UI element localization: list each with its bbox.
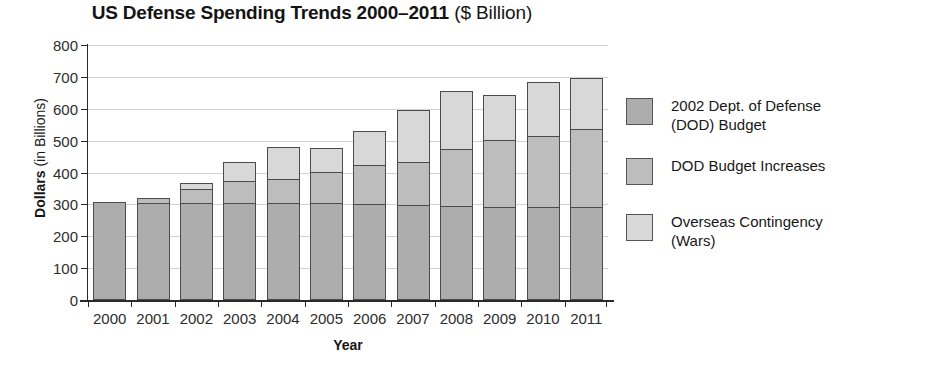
x-axis-tick xyxy=(218,300,219,307)
x-axis-tick xyxy=(391,300,392,307)
x-axis-tick-label: 2002 xyxy=(174,311,218,327)
bar-segment-base xyxy=(180,203,213,300)
y-axis-tick xyxy=(81,268,88,269)
x-axis-tick xyxy=(521,300,522,307)
x-axis-tick-label: 2003 xyxy=(218,311,262,327)
x-axis-tick xyxy=(348,300,349,307)
bar-segment-ocw xyxy=(267,147,300,180)
legend-item-label: DOD Budget Increases xyxy=(671,156,931,175)
bar-segment-base xyxy=(93,202,126,300)
chart-title: US Defense Spending Trends 2000–2011 ($ … xyxy=(0,2,624,24)
bar-column xyxy=(223,45,256,300)
bar-segment-incr xyxy=(527,136,560,207)
chart-legend: 2002 Dept. of Defense(DOD) BudgetDOD Bud… xyxy=(626,96,946,272)
bar-segment-incr xyxy=(180,189,213,204)
y-axis-tick xyxy=(81,204,88,205)
legend-item: Overseas Contingency(Wars) xyxy=(626,212,946,250)
bar-segment-base xyxy=(310,203,343,300)
bar-segment-incr xyxy=(483,140,516,207)
x-axis-tick xyxy=(606,300,607,307)
bar-column xyxy=(397,45,430,300)
bar-segment-base xyxy=(137,203,170,300)
y-axis-tick xyxy=(81,236,88,237)
x-axis-tick-label: 2011 xyxy=(564,311,608,327)
y-axis-tick-label: 400 xyxy=(32,166,78,181)
bar-segment-ocw xyxy=(310,148,343,173)
bar-segment-incr xyxy=(267,179,300,205)
bar-segment-ocw xyxy=(440,91,473,150)
x-axis-tick-label: 2006 xyxy=(348,311,392,327)
y-axis-tick-label: 200 xyxy=(32,229,78,244)
x-axis-tick xyxy=(435,300,436,307)
x-axis-tick xyxy=(131,300,132,307)
y-axis-tick xyxy=(81,173,88,174)
bar-segment-incr xyxy=(570,129,603,207)
bar-column xyxy=(310,45,343,300)
bar-segment-incr xyxy=(310,172,343,205)
x-axis-line xyxy=(80,300,614,302)
bar-segment-base xyxy=(223,203,256,300)
x-axis-tick xyxy=(478,300,479,307)
y-axis-tick-label: 700 xyxy=(32,70,78,85)
defense-spending-chart: US Defense Spending Trends 2000–2011 ($ … xyxy=(0,0,952,377)
bar-segment-incr xyxy=(353,165,386,205)
bar-column xyxy=(527,45,560,300)
bar-segment-ocw xyxy=(353,131,386,166)
bar-segment-base xyxy=(570,207,603,300)
bar-segment-base xyxy=(267,203,300,300)
bar-column xyxy=(440,45,473,300)
x-axis-tick-label: 2005 xyxy=(304,311,348,327)
y-axis-tick xyxy=(81,109,88,110)
x-axis-tick-label: 2001 xyxy=(131,311,175,327)
bar-segment-ocw xyxy=(483,95,516,141)
bar-segment-base xyxy=(440,206,473,300)
y-axis-tick-label: 600 xyxy=(32,102,78,117)
x-axis-tick-label: 2009 xyxy=(478,311,522,327)
bar-segment-incr xyxy=(223,181,256,204)
bar-segment-ocw xyxy=(223,162,256,182)
legend-item: 2002 Dept. of Defense(DOD) Budget xyxy=(626,96,946,134)
x-axis-tick-label: 2004 xyxy=(261,311,305,327)
x-axis-title: Year xyxy=(88,337,608,353)
x-axis-tick xyxy=(261,300,262,307)
y-axis-tick-label: 500 xyxy=(32,134,78,149)
bar-column xyxy=(137,45,170,300)
x-axis-tick xyxy=(305,300,306,307)
bar-column xyxy=(93,45,126,300)
bar-segment-incr xyxy=(440,149,473,207)
x-axis-tick xyxy=(175,300,176,307)
y-axis-tick-labels: 0100200300400500600700800 xyxy=(26,0,78,377)
y-axis-tick-label: 800 xyxy=(32,38,78,53)
y-axis-tick xyxy=(81,45,88,46)
y-axis-tick-label: 0 xyxy=(32,293,78,308)
bar-column xyxy=(353,45,386,300)
bar-column xyxy=(180,45,213,300)
bar-segment-ocw xyxy=(570,78,603,130)
y-axis-tick-label: 100 xyxy=(32,261,78,276)
bar-column xyxy=(483,45,516,300)
bar-segment-ocw xyxy=(527,82,560,138)
bar-segment-base xyxy=(483,207,516,300)
y-axis-tick xyxy=(81,300,88,301)
x-axis-tick-label: 2000 xyxy=(88,311,132,327)
legend-swatch-icon xyxy=(626,158,653,185)
bar-column xyxy=(267,45,300,300)
y-axis-tick xyxy=(81,141,88,142)
y-axis-tick-label: 300 xyxy=(32,197,78,212)
bar-segment-incr xyxy=(397,162,430,206)
x-axis-tick-label: 2008 xyxy=(434,311,478,327)
legend-item: DOD Budget Increases xyxy=(626,156,946,190)
bar-segment-base xyxy=(397,205,430,300)
bar-segment-ocw xyxy=(397,110,430,163)
bar-column xyxy=(570,45,603,300)
x-axis-tick-label: 2007 xyxy=(391,311,435,327)
bar-segment-base xyxy=(353,204,386,300)
legend-item-label: 2002 Dept. of Defense(DOD) Budget xyxy=(671,96,931,134)
legend-item-label: Overseas Contingency(Wars) xyxy=(671,212,931,250)
x-axis-tick xyxy=(565,300,566,307)
chart-title-units: ($ Billion) xyxy=(454,2,532,23)
legend-swatch-icon xyxy=(626,98,653,125)
legend-swatch-icon xyxy=(626,214,653,241)
chart-title-main: US Defense Spending Trends 2000–2011 xyxy=(92,2,449,23)
bar-segment-base xyxy=(527,207,560,300)
